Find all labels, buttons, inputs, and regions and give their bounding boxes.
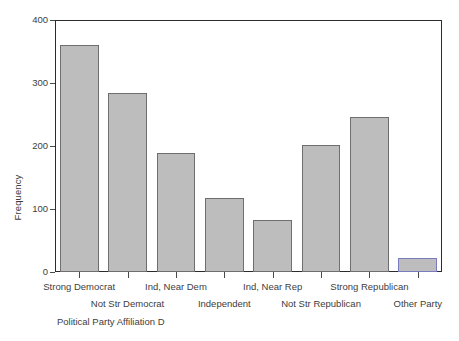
x-axis-category-labels: Strong DemocratNot Str DemocratInd, Near…	[0, 280, 459, 320]
x-tick-label: Independent	[198, 299, 251, 309]
x-axis-ticks	[55, 272, 442, 279]
y-tick-label: 0	[18, 267, 48, 277]
plot-area	[55, 20, 442, 272]
x-tick-mark	[273, 272, 274, 278]
x-tick-label: Strong Democrat	[43, 282, 115, 292]
y-tick-label: 100	[18, 204, 48, 214]
x-tick-mark	[128, 272, 129, 278]
y-tick-label: 400	[18, 15, 48, 25]
x-tick-label: Other Party	[394, 299, 443, 309]
y-tick-label: 300	[18, 78, 48, 88]
x-tick-label: Ind, Near Rep	[243, 282, 302, 292]
bar-chart: Frequency 0100200300400 Strong DemocratN…	[0, 0, 459, 341]
x-tick-mark	[321, 272, 322, 278]
x-tick-mark	[176, 272, 177, 278]
x-axis-title: Political Party Affiliation D	[57, 316, 165, 327]
x-tick-mark	[224, 272, 225, 278]
y-tick-label: 200	[18, 141, 48, 151]
x-tick-label: Ind, Near Dem	[145, 282, 207, 292]
x-tick-label: Strong Republican	[330, 282, 408, 292]
x-tick-mark	[418, 272, 419, 278]
x-tick-label: Not Str Democrat	[91, 299, 164, 309]
x-tick-mark	[79, 272, 80, 278]
x-tick-mark	[369, 272, 370, 278]
x-tick-label: Not Str Republican	[281, 299, 361, 309]
